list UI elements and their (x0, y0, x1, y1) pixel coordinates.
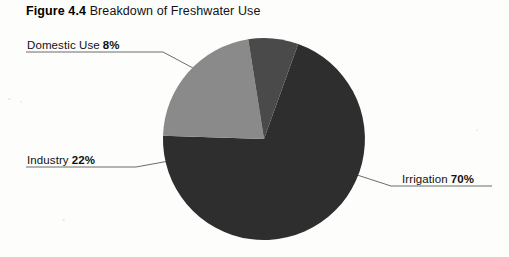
callout-industry-percent: 22% (69, 154, 95, 166)
callout-industry: Industry22% (27, 153, 95, 167)
pie-slice-industry[interactable] (163, 39, 264, 139)
callout-irrigation-category: Irrigation (402, 173, 448, 185)
leader-line-domestic (26, 52, 208, 76)
callout-irrigation: Irrigation70% (402, 172, 474, 186)
pie-slices (163, 38, 365, 240)
figure-page: Figure 4.4 Breakdown of Freshwater Use (0, 0, 509, 257)
callout-irrigation-percent: 70% (448, 173, 474, 185)
callout-domestic-category: Domestic Use (27, 39, 100, 51)
callout-domestic-percent: 8% (100, 39, 120, 51)
pie-chart: Domestic Use8% Industry22% Irrigation70% (0, 0, 509, 257)
callout-industry-category: Industry (27, 154, 69, 166)
callout-domestic-use: Domestic Use8% (27, 38, 120, 52)
